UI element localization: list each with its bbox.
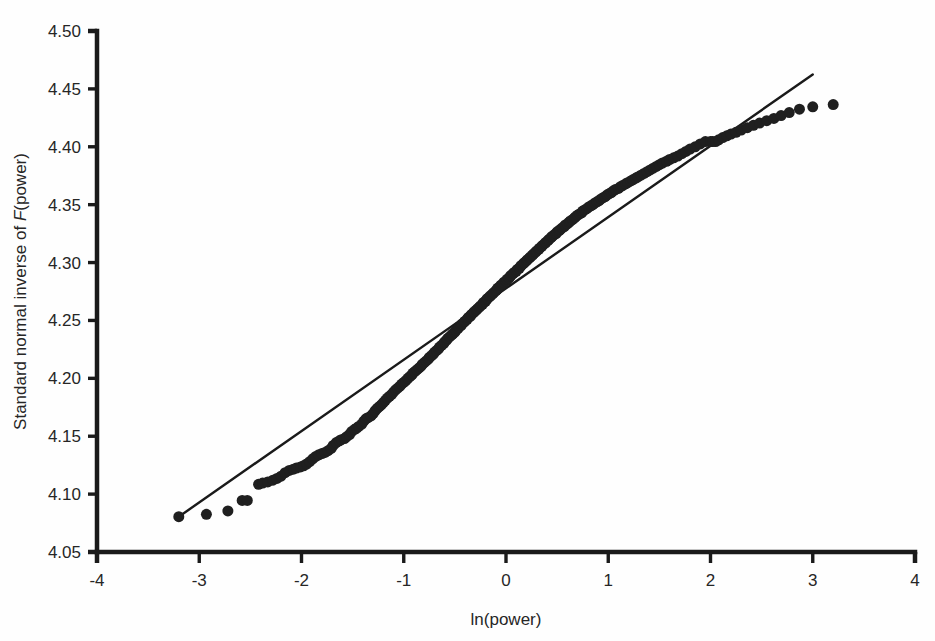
data-point — [222, 505, 233, 516]
y-tick-label: 4.20 — [48, 369, 81, 388]
x-tick-label: 4 — [910, 571, 919, 590]
y-tick-label: 4.40 — [48, 138, 81, 157]
y-tick-label: 4.35 — [48, 196, 81, 215]
y-tick-label: 4.25 — [48, 311, 81, 330]
y-tick-label: 4.15 — [48, 427, 81, 446]
data-point — [828, 99, 839, 110]
x-tick-label: -1 — [396, 571, 411, 590]
x-tick-label: -2 — [294, 571, 309, 590]
data-point — [242, 495, 253, 506]
y-tick-label: 4.45 — [48, 80, 81, 99]
x-tick-label: 2 — [706, 571, 715, 590]
x-tick-label: -3 — [192, 571, 207, 590]
y-axis-title-text: Standard normal inverse of F(power) — [11, 153, 30, 430]
y-tick-label: 4.30 — [48, 254, 81, 273]
data-point — [201, 509, 212, 520]
x-axis-title-text: ln(power) — [471, 610, 542, 629]
data-point-group — [173, 99, 838, 522]
y-tick-label: 4.10 — [48, 485, 81, 504]
qq-plot-canvas: 4.054.104.154.204.254.304.354.404.454.50… — [0, 0, 935, 641]
y-tick-label: 4.05 — [48, 543, 81, 562]
x-tick-label: 3 — [808, 571, 817, 590]
x-tick-label: 0 — [501, 571, 510, 590]
qq-plot-figure: 4.054.104.154.204.254.304.354.404.454.50… — [0, 0, 935, 641]
y-tick-label: 4.50 — [48, 22, 81, 41]
x-tick-label: -4 — [89, 571, 104, 590]
data-point — [794, 104, 805, 115]
x-tick-label: 1 — [604, 571, 613, 590]
data-point — [173, 511, 184, 522]
data-point — [807, 101, 818, 112]
data-point — [784, 107, 795, 118]
